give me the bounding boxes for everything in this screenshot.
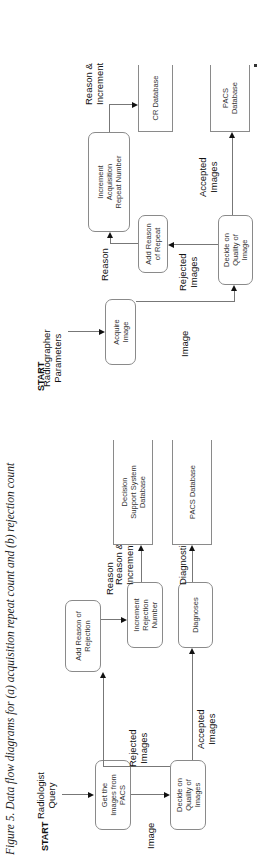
flow-label-rejected-b: Rejected Images [128, 730, 150, 768]
image-flow-line [131, 794, 164, 795]
node-acquire-image: Acquire Image [105, 299, 136, 365]
accepted-flow-line [232, 138, 233, 215]
arrow-right-icon [231, 285, 237, 291]
node-add-reason-of-rejection: Add Reason of Rejection [65, 600, 101, 672]
arrow-down-icon [88, 792, 94, 798]
diagnostic-flow-line [192, 551, 193, 582]
node-add-reason-of-repeat: Add Reason of Repeat [138, 215, 168, 273]
node-decide-quality-image: Decide on Quality of Image [218, 215, 253, 285]
diagram-b-radiologist-query-label: Radiologist Query [36, 772, 58, 819]
reason-flow-line [110, 243, 138, 244]
arrow-right-icon [229, 132, 235, 138]
reason-flow-line [101, 619, 121, 620]
diagram-a-radiographer-parameters-label: Radiographer Parameters [42, 329, 64, 387]
image-flow-line [136, 301, 234, 302]
arrow-right-icon [100, 672, 106, 678]
flow-label-diagnostic-b: Diagnostic [178, 541, 189, 585]
arrow-right-icon [138, 545, 144, 551]
node-increment-rejection-number: Increment Rejection Number [127, 582, 163, 648]
flow-label-reason-a: Reason [100, 248, 111, 281]
reason-increment-flow-line [141, 551, 142, 582]
flow-label-image-b: Image [146, 823, 157, 849]
rejected-flow-line [103, 678, 104, 767]
image-flow-line [234, 291, 235, 302]
flow-label-image-a: Image [180, 331, 191, 357]
flow-label-reason-increment-a: Reason & Increment [84, 63, 106, 105]
node-get-images-from-pacs: Get the Images from PACS [95, 760, 131, 830]
rejected-flow-line [174, 244, 218, 245]
reason-increment-flow-line [109, 104, 132, 105]
arrow-right-icon [189, 545, 195, 551]
document-page: Figure 5. Data flow diagrams for (a) acq… [0, 0, 261, 857]
reason-increment-flow-line [109, 105, 110, 132]
reason-flow-line [110, 238, 111, 244]
node-diagnoses: Diagnoses [178, 582, 213, 648]
arrow-right-icon [107, 232, 113, 238]
flow-label-accepted-b: Accepted Images [196, 709, 218, 749]
flow-label-rejected-a: Rejected Images [178, 254, 200, 292]
flow-label-reason-increment-b: Reason & Increment [114, 543, 136, 585]
flow-label-accepted-a: Accepted Images [198, 157, 220, 197]
datastore-pacs-database-a: PACS Database [210, 65, 250, 132]
query-flow-line [62, 794, 88, 795]
datastore-decision-support-system: Decision Support System Database [113, 440, 153, 545]
arrow-up-icon [168, 242, 174, 248]
parameters-flow-line [68, 331, 99, 332]
datastore-cr-database: CR Database [138, 65, 173, 132]
diagram-b-start-label: START [40, 822, 50, 851]
node-increment-acquisition-repeat-number: Increment Acquisition Repeat Number [88, 132, 130, 232]
datastore-pacs-database-b: PACS Database [172, 440, 212, 545]
page-mark [254, 64, 257, 67]
accepted-flow-line [192, 654, 193, 760]
figure-caption: Figure 5. Data flow diagrams for (a) acq… [4, 385, 16, 855]
arrow-right-icon [189, 648, 195, 654]
node-decide-quality-images: Decide on Quality of Images [170, 760, 206, 830]
